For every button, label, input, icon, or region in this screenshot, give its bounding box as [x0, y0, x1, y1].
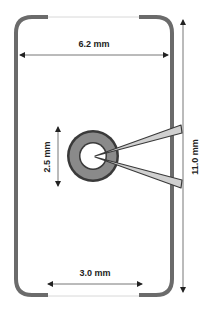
opening-dimension-label: 3.0 mm — [79, 268, 110, 278]
outline-right — [139, 17, 172, 295]
ring-dimension-label: 2.5 mm — [42, 141, 52, 172]
width-dimension-label: 6.2 mm — [78, 39, 109, 49]
height-dimension-label: 11.0 mm — [190, 139, 200, 175]
ring-hole — [81, 144, 106, 169]
dimension-diagram: 6.2 mm 3.0 mm 11.0 mm 2.5 mm — [0, 0, 209, 311]
